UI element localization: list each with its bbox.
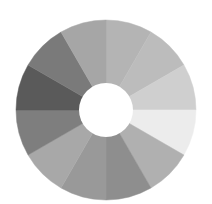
donut-hole (79, 83, 133, 137)
donut-chart (0, 0, 212, 204)
